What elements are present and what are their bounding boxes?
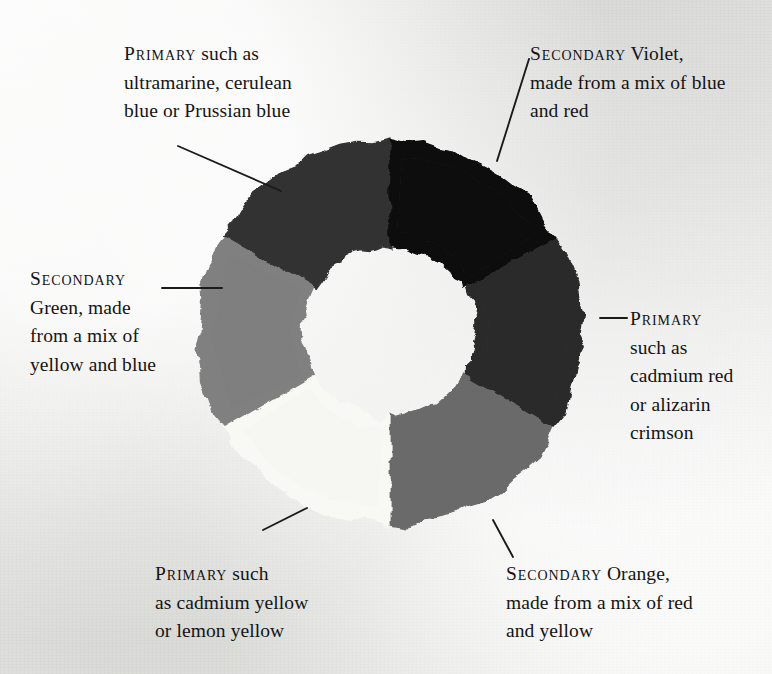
label-green: Secondary Green, made from a mix of yell…	[30, 265, 200, 379]
label-lead-blue: Primary	[124, 43, 196, 64]
label-lead-violet: Secondary	[530, 43, 626, 64]
label-lead-red: Primary	[630, 308, 702, 329]
label-text-red: such as cadmium red or alizarin crimson	[630, 337, 733, 444]
label-orange: Secondary Orange, made from a mix of red…	[506, 560, 756, 646]
colour-wheel-figure: Primary such as ultramarine, cerulean bl…	[0, 0, 772, 674]
label-red: Primary such as cadmium red or alizarin …	[630, 305, 770, 448]
label-violet: Secondary Violet, made from a mix of blu…	[530, 40, 770, 126]
label-group: Primary such as ultramarine, cerulean bl…	[0, 0, 772, 674]
label-lead-green: Secondary	[30, 268, 126, 289]
label-lead-orange: Secondary	[506, 563, 602, 584]
label-yellow: Primary such as cadmium yellow or lemon …	[155, 560, 375, 646]
label-text-green: Green, made from a mix of yellow and blu…	[30, 297, 156, 375]
label-blue: Primary such as ultramarine, cerulean bl…	[124, 40, 374, 126]
label-lead-yellow: Primary	[155, 563, 227, 584]
